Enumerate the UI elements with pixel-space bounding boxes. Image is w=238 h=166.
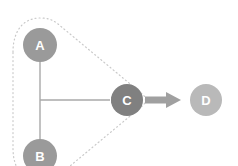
edge-c-to-d-thick-arrow [145, 92, 181, 108]
node-c[interactable]: C [111, 84, 143, 116]
thin-edge-group [40, 45, 119, 156]
node-b[interactable]: B [23, 139, 57, 166]
node-a-circle[interactable] [23, 28, 57, 62]
graph-diagram: A B C D [0, 0, 238, 166]
node-b-circle[interactable] [23, 139, 57, 166]
node-a[interactable]: A [23, 28, 57, 62]
node-d[interactable]: D [190, 84, 222, 116]
edge-c-to-d-shaft [145, 97, 167, 104]
node-c-circle[interactable] [111, 84, 143, 116]
node-d-circle[interactable] [190, 84, 222, 116]
diagram-canvas: A B C D [0, 0, 238, 166]
edge-c-to-d-arrowhead [166, 92, 181, 108]
